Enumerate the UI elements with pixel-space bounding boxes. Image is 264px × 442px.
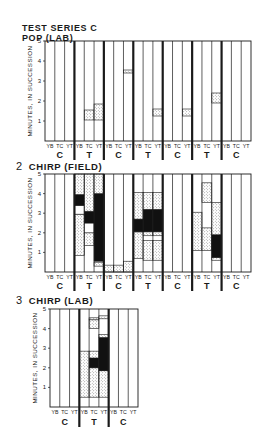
column-label: YB [194, 143, 201, 149]
column-label: TC [86, 143, 93, 149]
column-label: YT [125, 274, 132, 280]
bar-segment [202, 183, 212, 203]
bar-segment [153, 209, 163, 232]
y-tick-label: 2 [38, 230, 42, 236]
y-tick-label: 2 [43, 365, 47, 371]
group-label: C [233, 150, 240, 160]
group-label: C [120, 417, 127, 427]
column-label: YT [130, 409, 137, 415]
column-label: YB [46, 274, 53, 280]
y-tick-label: 4 [38, 58, 42, 64]
bar-segment [143, 193, 153, 210]
bar-segment [94, 174, 104, 194]
bar-segment [94, 194, 104, 262]
group-label: C [233, 281, 240, 291]
column-label: YT [100, 409, 107, 415]
column-label: YT [125, 143, 132, 149]
bar-segment [114, 265, 124, 272]
bar-segment [143, 241, 153, 261]
column-label: TC [61, 409, 68, 415]
column-label: TC [233, 143, 240, 149]
bar-segment [99, 371, 109, 397]
y-tick-label: 4 [38, 191, 42, 197]
column-label: YT [66, 274, 73, 280]
column-label: YB [194, 274, 201, 280]
column-label: TC [115, 274, 122, 280]
y-tick-label: 1 [43, 384, 47, 390]
column-label: TC [91, 409, 98, 415]
group-label: C [56, 150, 63, 160]
bar-segment [143, 232, 153, 236]
column-label: YT [184, 143, 191, 149]
bar-segment [94, 104, 104, 120]
group-label: C [56, 281, 63, 291]
column-label: TC [56, 274, 63, 280]
bar-segment [123, 261, 133, 272]
group-label: T [86, 150, 92, 160]
column-label: TC [233, 274, 240, 280]
column-label: TC [174, 143, 181, 149]
bar-segment [74, 174, 84, 195]
column-label: YT [154, 143, 161, 149]
bar-segment [89, 320, 99, 329]
group-label: C [174, 281, 181, 291]
bar-segment [84, 110, 94, 120]
bar-segment [89, 368, 99, 397]
column-label: YB [135, 143, 142, 149]
bar-segment [84, 174, 94, 211]
column-label: YB [135, 274, 142, 280]
chart-panel-2: 12345MINUTES, IN SUCCESSIONYBTCYTYBTCYTY… [26, 171, 251, 291]
bar-segment [84, 233, 94, 246]
bar-segment [79, 351, 89, 397]
column-label: TC [145, 274, 152, 280]
bar-segment [89, 358, 99, 368]
bar-segment [212, 235, 222, 258]
group-label: T [86, 281, 92, 291]
column-label: YT [213, 274, 220, 280]
y-tick-label: 1 [38, 118, 42, 124]
column-label: TC [56, 143, 63, 149]
bar-segment [153, 193, 163, 210]
bar-segment [202, 228, 212, 251]
y-tick-label: 5 [38, 171, 42, 177]
y-tick-label: 1 [38, 249, 42, 255]
group-label: C [174, 150, 181, 160]
bar-segment [212, 93, 222, 103]
column-label: YB [76, 274, 83, 280]
column-label: YT [96, 274, 103, 280]
column-label: YT [184, 274, 191, 280]
column-label: YB [223, 274, 230, 280]
column-label: TC [203, 143, 210, 149]
chart-canvas: 12345MINUTES, IN SUCCESSIONYBTCYTYBTCYTY… [0, 0, 264, 442]
column-label: YT [243, 274, 250, 280]
column-label: YT [71, 409, 78, 415]
column-label: YB [223, 143, 230, 149]
y-tick-label: 3 [38, 78, 42, 84]
column-label: YB [105, 143, 112, 149]
bar-segment [192, 212, 202, 250]
y-axis-label: MINUTES, IN SUCCESSION [26, 177, 33, 268]
column-label: YT [243, 143, 250, 149]
column-label: YB [46, 143, 53, 149]
plot-frame [45, 41, 251, 141]
chart-panel-1: 12345MINUTES, IN SUCCESSIONYBTCYTYBTCYTY… [26, 38, 251, 160]
group-label: C [115, 281, 122, 291]
bar-segment [74, 205, 84, 214]
bar-segment [153, 109, 163, 116]
column-label: YB [164, 143, 171, 149]
y-axis-label: MINUTES, IN SUCCESSION [31, 312, 38, 403]
bar-segment [153, 232, 163, 236]
bar-segment [99, 334, 109, 337]
column-label: YT [96, 143, 103, 149]
group-label: C [61, 417, 68, 427]
column-label: TC [145, 143, 152, 149]
bar-segment [133, 232, 143, 258]
column-label: TC [115, 143, 122, 149]
bar-segment [94, 262, 104, 266]
column-label: YB [76, 143, 83, 149]
chart-panel-3: 12345MINUTES, IN SUCCESSIONYBTCYTYBTCYTY… [31, 306, 138, 427]
bar-segment [74, 214, 84, 255]
bar-segment [182, 109, 192, 116]
column-label: YB [105, 274, 112, 280]
column-label: TC [86, 274, 93, 280]
